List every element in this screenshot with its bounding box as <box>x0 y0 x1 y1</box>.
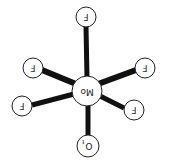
bond-mo-f-upper-left <box>42 70 76 84</box>
label-f-lower-right: F <box>131 105 136 115</box>
bond-mo-f-top <box>86 26 87 78</box>
bond-mo-f-lower-left <box>32 94 74 105</box>
molecule-diagram: F F F F F Mo O t <box>0 0 169 167</box>
label-o: O <box>85 141 92 151</box>
label-f-upper-left: F <box>30 63 35 73</box>
label-f-lower-left: F <box>19 101 24 111</box>
bond-mo-f-upper-right <box>98 70 136 84</box>
label-f-upper-right: F <box>142 63 147 73</box>
bond-mo-f-lower-right <box>100 96 124 108</box>
label-f-top: F <box>83 12 88 22</box>
label-mo: Mo <box>80 87 94 97</box>
atoms <box>12 7 155 157</box>
